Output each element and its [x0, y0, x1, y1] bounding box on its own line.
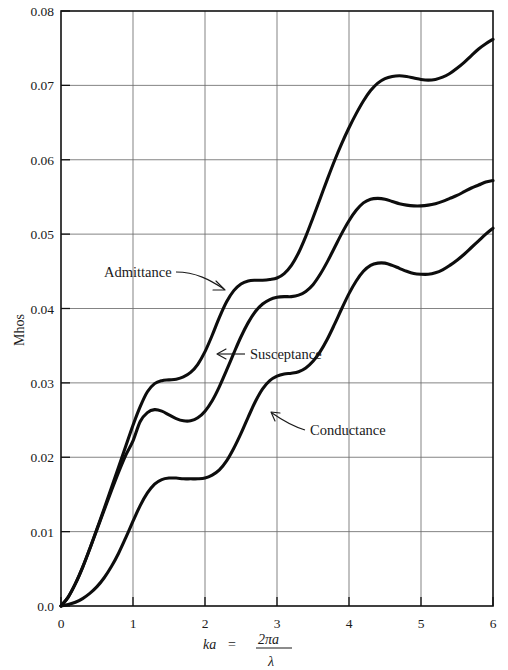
susceptance-label: Susceptance: [250, 346, 322, 362]
admittance-label: Admittance: [104, 264, 172, 280]
x-tick-label: 0: [58, 616, 65, 631]
x-tick-label: 6: [490, 616, 497, 631]
x-tick-label: 4: [346, 616, 353, 631]
y-tick-label: 0.08: [30, 4, 54, 19]
grid-lines: [61, 11, 493, 606]
y-tick-label: 0.0: [37, 599, 54, 614]
y-tick-label: 0.02: [30, 450, 54, 465]
x-tick-label: 2: [202, 616, 209, 631]
y-tick-label: 0.04: [30, 302, 54, 317]
x-axis-title-equals: =: [228, 637, 236, 652]
y-axis-tick-labels: 0.00.010.020.030.040.050.060.070.08: [30, 4, 54, 614]
admittance-susceptance-conductance-chart: 0.00.010.020.030.040.050.060.070.08 0123…: [0, 0, 508, 670]
x-axis-tick-labels: 0123456: [58, 616, 497, 631]
x-axis-title-numerator: 2πa: [258, 632, 279, 647]
x-axis-title: ka = 2πa λ: [203, 632, 292, 669]
x-tick-label: 1: [130, 616, 137, 631]
conductance-label: Conductance: [310, 422, 386, 438]
y-tick-label: 0.05: [30, 227, 54, 242]
x-axis-title-denominator: λ: [267, 654, 274, 669]
y-tick-label: 0.06: [30, 153, 54, 168]
admittance-leader-line: [176, 272, 224, 289]
x-tick-label: 3: [274, 616, 281, 631]
x-axis-title-lhs: ka: [203, 637, 216, 652]
y-tick-label: 0.01: [30, 525, 54, 540]
y-axis-title: Mhos: [12, 314, 27, 346]
x-tick-label: 5: [418, 616, 425, 631]
chart-container: 0.00.010.020.030.040.050.060.070.08 0123…: [0, 0, 508, 670]
y-tick-label: 0.03: [30, 376, 54, 391]
y-tick-label: 0.07: [30, 78, 54, 93]
